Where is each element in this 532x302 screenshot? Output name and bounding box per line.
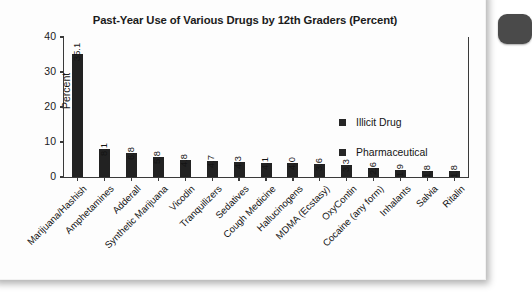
legend-item-label: Illicit Drug [356,117,402,128]
y-tick-label: 40 [30,30,56,42]
x-tick-mark [400,177,401,181]
x-tick-mark [158,177,159,181]
legend-item-pharmaceutical[interactable]: Pharmaceutical [339,147,428,158]
y-tick-mark [60,141,64,142]
y-axis-label: Percent [60,73,72,109]
chart-title: Past-Year Use of Various Drugs by 12th G… [30,14,460,26]
bar-value-label: 6.8 [126,147,136,160]
x-tick-mark [131,177,132,181]
x-tick-mark [346,177,347,181]
x-tick-mark [265,177,266,181]
y-tick-label: 20 [30,100,56,112]
x-tick-mark [77,177,78,181]
x-tick-mark [292,177,293,181]
y-tick-mark [60,36,64,37]
y-tick-label: 30 [30,65,56,77]
y-tick-label: 10 [30,135,56,147]
bar-value-label: 5.8 [152,151,162,164]
x-tick-mark [185,177,186,181]
bar-value-label: 8.1 [99,143,109,156]
plot-area: Percent 010203040 35.18.16.85.84.84.74.3… [63,37,469,178]
bar [72,54,83,177]
x-tick-mark [104,177,105,181]
x-tick-mark [238,177,239,181]
legend-item-label: Pharmaceutical [356,147,428,158]
legend-item-illicit-drug[interactable]: Illicit Drug [339,117,428,128]
bar-value-label: 4.3 [233,156,243,169]
legend-swatch-icon [339,149,346,156]
bar-value-label: 4.7 [206,155,216,168]
bar-value-label: 4.1 [260,157,270,170]
bar-value-label: 1.8 [449,165,459,178]
legend-swatch-icon [339,119,346,126]
x-tick-mark [319,177,320,181]
x-tick-mark [212,177,213,181]
y-tick-mark [60,71,64,72]
bar-value-label: 4.8 [179,154,189,167]
bar-value-label: 4.0 [287,157,297,170]
bar-value-label: 35.1 [72,43,82,61]
chart-legend: Illicit Drug Pharmaceutical [339,117,428,177]
y-tick-mark [60,106,64,107]
bar-value-label: 3.6 [314,158,324,171]
page-edge-tab-icon[interactable] [498,14,532,44]
y-tick-label: 0 [30,170,56,182]
y-tick-mark [60,176,64,177]
x-tick-mark [373,177,374,181]
